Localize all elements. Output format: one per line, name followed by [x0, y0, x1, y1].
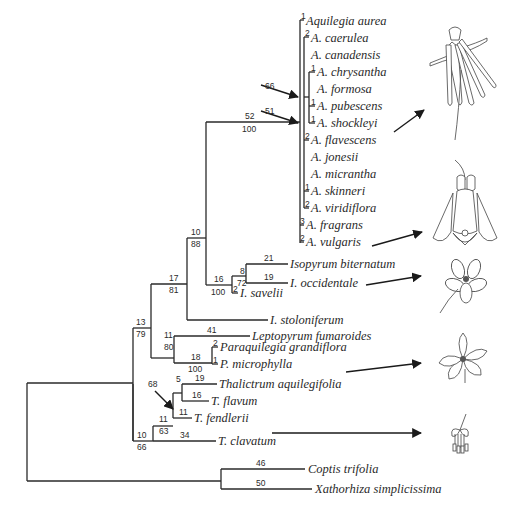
branch-length: 3 [300, 216, 305, 226]
taxon-label: I. occidentale [289, 276, 358, 290]
flower-isopyrum-icon [440, 258, 488, 313]
taxon-label: A. viridiflora [310, 201, 376, 215]
branch-length: 2 [213, 338, 218, 348]
taxon-labels: Aquilegia aurea A. caerulea A. canadensi… [194, 14, 442, 496]
flower-paraquilegia-icon [439, 333, 487, 383]
node-below: 100 [211, 287, 225, 297]
branch-length: 2 [300, 233, 305, 243]
taxon-label: A. skinneri [310, 184, 366, 198]
node-below: 88 [191, 239, 201, 249]
branch-length: 2 [305, 199, 310, 209]
taxon-label: T. clavatum [218, 434, 276, 448]
taxon-label: Xathorhiza simplicissima [314, 482, 442, 496]
flower-aquilegia-nodding-icon [433, 160, 497, 245]
node-below: 100 [188, 364, 202, 374]
node-above: 8 [240, 266, 245, 276]
flower-thalictrum-icon [452, 414, 469, 453]
branch-length: 1 [305, 182, 310, 192]
node-below: 72 [237, 278, 247, 288]
taxon-label: I. savelii [239, 286, 284, 300]
taxon-label: A. fragrans [305, 218, 363, 232]
node-below: 66 [137, 442, 147, 452]
node-above: 10 [191, 227, 201, 237]
taxon-label: A. canadensis [310, 48, 381, 62]
branch-length: 1 [311, 63, 316, 73]
branch-length: 2 [305, 131, 310, 141]
flower-aquilegia-spurred-icon [430, 27, 496, 140]
taxon-label: A. caerulea [310, 31, 369, 45]
branch-length: 11 [179, 407, 188, 417]
branch-length: 41 [207, 325, 217, 335]
node-above: 11 [164, 330, 173, 340]
node-above: 5 [176, 374, 181, 384]
branch-length: 1 [213, 355, 218, 365]
node-below: 63 [159, 426, 169, 436]
branch-length: 1 [311, 114, 316, 124]
taxon-label: A. flavescens [310, 133, 376, 147]
branch-length: 19 [264, 272, 274, 282]
phylogeny-figure: Aquilegia aurea A. caerulea A. canadensi… [0, 0, 530, 524]
node-above: 17 [169, 273, 179, 283]
taxon-label: Coptis trifolia [308, 462, 379, 476]
taxon-label: A. vulgaris [305, 235, 361, 249]
node-above: 52 [245, 111, 255, 121]
node-below: 79 [136, 329, 146, 339]
taxon-label: P. microphylla [219, 357, 292, 371]
taxon-label: A. micrantha [310, 167, 376, 181]
arrow-label-68: 68 [148, 379, 158, 389]
node-above: 13 [136, 317, 146, 327]
taxon-label: A. pubescens [316, 99, 382, 113]
taxon-label: T. flavum [211, 394, 257, 408]
branch-length: 34 [180, 430, 190, 440]
branch-length: 50 [256, 478, 266, 488]
taxon-label: Isopyrum biternatum [289, 257, 395, 271]
arrow-label-66: 66 [265, 81, 275, 91]
branch-length: 16 [192, 390, 202, 400]
taxon-label: I. stoloniferum [269, 313, 344, 327]
arrow-68 [155, 391, 173, 409]
node-below: 80 [164, 342, 174, 352]
branch-length: 2 [305, 28, 310, 38]
taxon-label: A. chrysantha [316, 65, 386, 79]
taxon-label: Aquilegia aurea [305, 14, 386, 28]
arrow-label-51: 51 [265, 106, 275, 116]
node-above: 10 [137, 430, 147, 440]
taxon-label: Paraquilegia grandiflora [219, 340, 347, 354]
taxon-label: A. shockleyi [316, 116, 378, 130]
node-below: 81 [169, 285, 179, 295]
taxon-label: Thalictrum aquilegifolia [219, 377, 342, 391]
tree-canvas: Aquilegia aurea A. caerulea A. canadensi… [0, 0, 530, 524]
taxon-label: A. formosa [316, 82, 372, 96]
node-below: 100 [242, 124, 256, 134]
branch-length: 19 [195, 373, 205, 383]
node-above: 18 [191, 352, 201, 362]
branch-length: 21 [264, 253, 274, 263]
node-above: 11 [159, 414, 168, 424]
branch-length: 1 [311, 97, 316, 107]
taxon-label: A. jonesii [310, 150, 359, 164]
branch-length: 46 [256, 458, 266, 468]
node-above: 16 [214, 274, 224, 284]
branch-length: 1 [301, 11, 306, 21]
taxon-label: T. fendlerii [194, 411, 249, 425]
